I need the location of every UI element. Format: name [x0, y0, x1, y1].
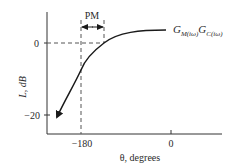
x-tick-label-neg180: −180: [72, 138, 93, 149]
x-tick-label-0: 0: [169, 138, 174, 149]
x-axis-label: θ, degrees: [120, 152, 160, 163]
pm-label: PM: [85, 10, 100, 21]
y-tick-label-neg20: −20: [24, 110, 40, 121]
y-axis-label: L, dB: [17, 76, 28, 99]
y-tick-label-0: 0: [34, 38, 39, 49]
curve-label: GM(iω)GC(iω): [173, 23, 223, 38]
nichols-chart: PM GM(iω)GC(iω) 0 −20 −180 0 L, dB θ, de…: [0, 0, 240, 168]
open-loop-curve: [57, 30, 166, 117]
